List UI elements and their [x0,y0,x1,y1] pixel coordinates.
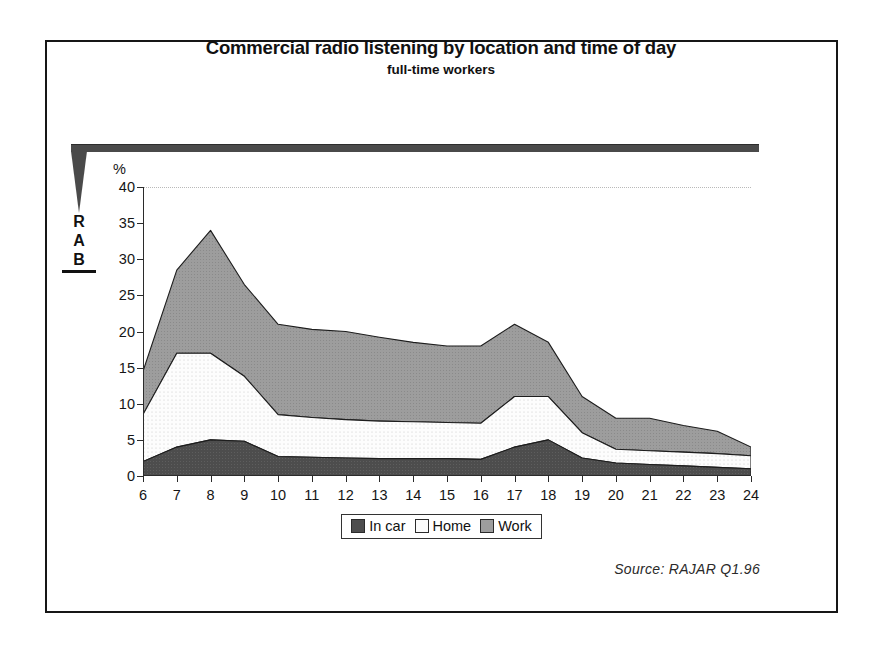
x-axis-tick-label: 10 [270,487,286,503]
y-axis-tick-mark [137,187,143,188]
x-axis-tick-label: 11 [304,487,319,503]
y-axis-tick-mark [137,332,143,333]
y-axis-tick-mark [137,259,143,260]
legend-swatch-icon [480,519,494,533]
x-axis-tick-label: 21 [642,487,658,503]
x-axis-tick-label: 20 [608,487,624,503]
rab-logo: R A B [62,212,96,273]
x-axis-tick-mark [751,476,752,482]
x-axis-tick-mark [312,476,313,482]
x-axis-tick-label: 19 [574,487,590,503]
x-axis-tick-label: 13 [371,487,387,503]
x-axis-tick-mark [278,476,279,482]
x-axis-tick-mark [481,476,482,482]
legend-item-home[interactable]: Home [415,518,472,534]
legend-item-work[interactable]: Work [480,518,532,534]
axis-lines [143,187,751,476]
x-axis-tick-label: 23 [709,487,725,503]
rab-arrow-icon [71,151,87,213]
x-axis-tick-label: 7 [173,487,181,503]
x-axis-tick-label: 16 [473,487,489,503]
legend-box: In carHomeWork [341,514,542,539]
x-axis-tick-mark [548,476,549,482]
x-axis-tick-label: 8 [207,487,215,503]
rab-rule [71,144,759,152]
x-axis-tick-label: 9 [240,487,248,503]
y-axis-tick-label: 10 [119,396,135,412]
y-axis-tick-label: 20 [119,324,135,340]
rab-letter-b: B [62,250,96,273]
plot-area: % 0510152025303540 678910111213141516171… [143,187,751,476]
x-axis-tick-mark [143,476,144,482]
x-axis-tick-label: 14 [405,487,421,503]
y-axis-tick-mark [137,223,143,224]
legend-label: Work [498,518,532,534]
y-axis-tick-mark [137,368,143,369]
y-axis-tick-mark [137,295,143,296]
x-axis-tick-label: 6 [139,487,147,503]
y-axis-tick-label: 5 [127,432,135,448]
x-axis-tick-mark [582,476,583,482]
legend: In carHomeWork [45,514,838,539]
x-axis-tick-mark [650,476,651,482]
x-axis-tick-mark [717,476,718,482]
y-axis-tick-label: 35 [119,215,135,231]
x-axis-tick-mark [683,476,684,482]
y-axis-tick-label: 15 [119,360,135,376]
x-axis-tick-mark [515,476,516,482]
y-axis-tick-mark [137,404,143,405]
x-axis-tick-label: 18 [540,487,556,503]
y-axis-tick-mark [137,440,143,441]
x-axis-tick-mark [346,476,347,482]
rab-letter-a: A [62,231,96,250]
legend-item-in-car[interactable]: In car [351,518,405,534]
y-axis-tick-label: 40 [119,179,135,195]
legend-swatch-icon [351,519,365,533]
x-axis-tick-label: 12 [338,487,354,503]
source-note: Source: RAJAR Q1.96 [614,561,760,577]
x-axis-tick-label: 15 [439,487,455,503]
y-axis-tick-label: 25 [119,287,135,303]
legend-label: Home [433,518,472,534]
x-axis-tick-mark [616,476,617,482]
chart-page: Commercial radio listening by location a… [0,0,882,647]
legend-swatch-icon [415,519,429,533]
x-axis-tick-mark [244,476,245,482]
x-axis-tick-mark [413,476,414,482]
x-axis-tick-mark [379,476,380,482]
y-axis-tick-label: 0 [127,468,135,484]
y-axis-unit-label: % [113,161,126,177]
x-axis-tick-label: 22 [675,487,691,503]
y-axis-tick-label: 30 [119,251,135,267]
x-axis-tick-label: 17 [506,487,522,503]
x-axis-tick-mark [177,476,178,482]
x-axis-tick-label: 24 [743,487,759,503]
legend-label: In car [369,518,405,534]
x-axis-tick-mark [447,476,448,482]
x-axis-tick-mark [211,476,212,482]
rab-letter-r: R [62,212,96,231]
